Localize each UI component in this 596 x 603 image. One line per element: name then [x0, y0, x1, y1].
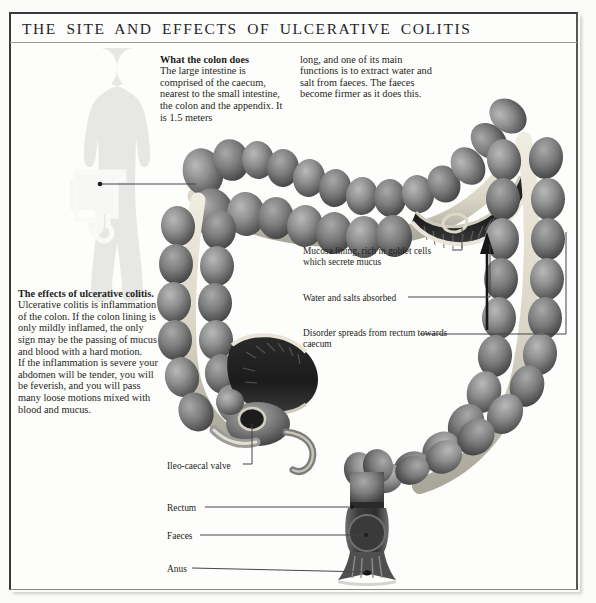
effects-heading: The effects of ulcerative colitis.: [18, 288, 158, 300]
annotation-ileo-caecal-valve: Ileo-caecal valve: [167, 461, 231, 472]
what-colon-does-text-2: long, and one of its main functions is t…: [300, 54, 432, 100]
illustration-page: THE SITE AND EFFECTS OF ULCERATIVE COLIT…: [0, 0, 596, 603]
what-colon-does-column-1: What the colon doesThe large intestine i…: [160, 42, 290, 123]
what-colon-does-column-2: long, and one of its main functions is t…: [300, 42, 440, 100]
annotation-rectum: Rectum: [167, 503, 196, 514]
what-colon-does-heading: What the colon does: [160, 54, 290, 66]
page-title: THE SITE AND EFFECTS OF ULCERATIVE COLIT…: [22, 20, 471, 38]
effects-paragraph-1: Ulcerative colitis is inflammation of th…: [18, 299, 157, 356]
what-colon-does-text-1: The large intestine is comprised of the …: [160, 65, 282, 122]
effects-paragraph-2: If the inflammation is severe your abdom…: [18, 357, 158, 414]
effects-of-ulcerative-colitis-block: The effects of ulcerative colitis.Ulcera…: [18, 276, 158, 415]
annotation-water-and-salts: Water and salts absorbed: [303, 293, 396, 304]
annotation-disorder-spread: Disorder spreads from rectum towards cae…: [303, 328, 453, 350]
title-divider: [10, 42, 577, 43]
annotation-faeces: Faeces: [167, 531, 193, 542]
annotation-mucosa-lining: Mucosa lining, rich in goblet cells whic…: [303, 246, 453, 268]
annotation-anus: Anus: [167, 564, 187, 575]
